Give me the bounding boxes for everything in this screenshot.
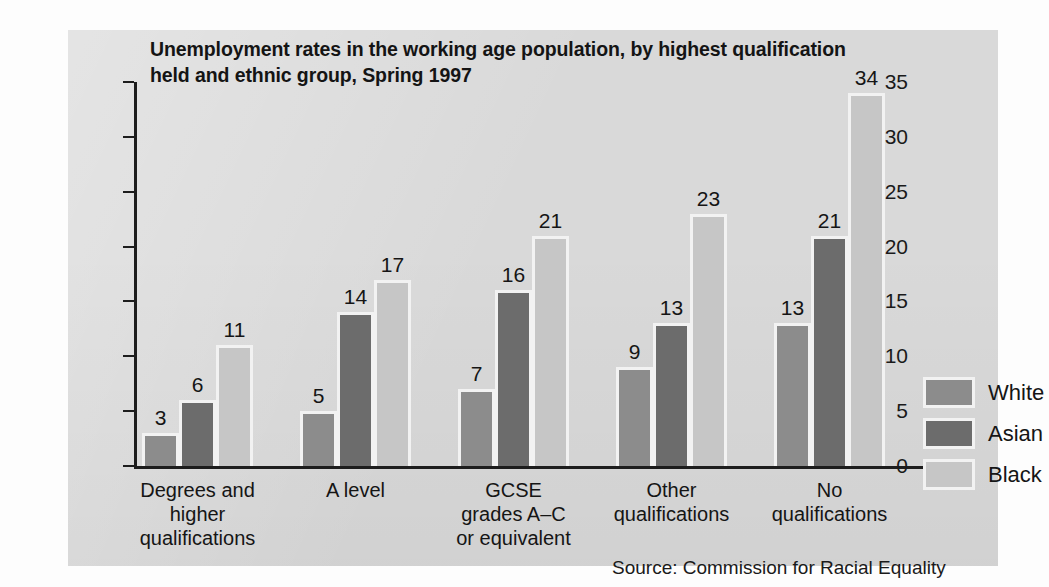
bar[interactable]: 11 (216, 345, 253, 466)
bar-value-label: 6 (192, 374, 204, 395)
source-note: Source: Commission for Racial Equality (612, 557, 946, 579)
bar[interactable]: 13 (774, 323, 811, 466)
plot-area: 05101520253035 3611514177162191323132134… (134, 82, 924, 466)
bar[interactable]: 34 (848, 93, 885, 466)
y-axis-tick-label: 25 (885, 180, 908, 204)
bar-group: 71621 (458, 82, 569, 466)
y-axis-tick (123, 136, 134, 138)
y-axis-tick (123, 246, 134, 248)
legend-item[interactable]: Asian (923, 413, 1044, 454)
legend-label: Asian (988, 421, 1043, 447)
bar-value-label: 16 (502, 264, 525, 285)
bar-value-label: 11 (224, 319, 246, 340)
y-axis-tick-label: 15 (885, 289, 908, 313)
bar-value-label: 3 (155, 407, 167, 428)
y-axis-tick-label: 20 (885, 235, 908, 259)
legend: WhiteAsianBlack (923, 372, 1044, 495)
legend-swatch (923, 377, 975, 408)
bar[interactable]: 21 (532, 236, 569, 466)
bar[interactable]: 13 (653, 323, 690, 466)
bar-group: 132134 (774, 82, 885, 466)
bar-value-label: 21 (539, 210, 562, 231)
bar[interactable]: 23 (690, 214, 727, 466)
y-axis-tick-label: 30 (885, 125, 908, 149)
bar[interactable]: 5 (300, 411, 337, 466)
bar[interactable]: 9 (616, 367, 653, 466)
bar[interactable]: 16 (495, 290, 532, 466)
bar-value-label: 5 (313, 385, 325, 406)
y-axis-line (134, 82, 137, 466)
y-axis-tick-label: 10 (885, 344, 908, 368)
legend-item[interactable]: White (923, 372, 1044, 413)
y-axis-tick (123, 465, 134, 467)
bar[interactable]: 21 (811, 236, 848, 466)
bar[interactable]: 3 (142, 433, 179, 466)
bar-value-label: 13 (781, 297, 804, 318)
x-axis-line (134, 466, 924, 469)
bar-value-label: 14 (344, 286, 367, 307)
bar-value-label: 21 (818, 210, 841, 231)
scanned-page: Unemployment rates in the working age po… (0, 0, 1049, 587)
y-axis-tick-label: 35 (885, 70, 908, 94)
y-axis-tick-label: 5 (896, 399, 908, 423)
y-axis-tick (123, 410, 134, 412)
bar-group: 3611 (142, 82, 253, 466)
bar-value-label: 34 (855, 67, 878, 88)
legend-swatch (923, 459, 975, 490)
bar-value-label: 9 (629, 341, 641, 362)
x-axis-category-label: No qualifications (734, 478, 925, 526)
bar-group: 51417 (300, 82, 411, 466)
legend-item[interactable]: Black (923, 454, 1044, 495)
chart-title: Unemployment rates in the working age po… (150, 36, 850, 88)
bar[interactable]: 14 (337, 312, 374, 466)
y-axis-tick-label: 0 (896, 454, 908, 478)
bar-value-label: 7 (471, 363, 483, 384)
bar-value-label: 13 (660, 297, 683, 318)
bar-group: 91323 (616, 82, 727, 466)
y-axis-tick (123, 300, 134, 302)
y-axis-tick (123, 81, 134, 83)
bar-value-label: 23 (697, 188, 720, 209)
bar-value-label: 17 (381, 254, 404, 275)
chart-panel: Unemployment rates in the working age po… (68, 30, 998, 566)
bar[interactable]: 17 (374, 280, 411, 467)
y-axis-tick (123, 355, 134, 357)
bar[interactable]: 6 (179, 400, 216, 466)
legend-label: White (988, 380, 1044, 406)
bar[interactable]: 7 (458, 389, 495, 466)
legend-label: Black (988, 462, 1042, 488)
legend-swatch (923, 418, 975, 449)
y-axis-tick (123, 191, 134, 193)
